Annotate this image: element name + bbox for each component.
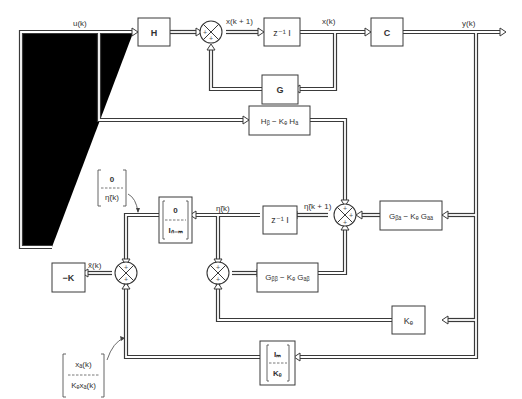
block-G: G: [262, 75, 298, 104]
plus-sign: +: [343, 219, 347, 226]
sum-junction-lower-middle: + +: [207, 262, 229, 284]
svg-text:0: 0: [173, 206, 178, 215]
svg-text:z⁻¹ I: z⁻¹ I: [271, 215, 289, 225]
svg-text:Gᵦᵦ − Kₑ Gₐᵦ: Gᵦᵦ − Kₑ Gₐᵦ: [265, 273, 309, 282]
sum-junction-middle: + + +: [334, 204, 356, 226]
block-delay-top: z⁻¹ I: [264, 18, 300, 46]
arrow-icon: [500, 28, 506, 36]
block-diagram: + + + + + + + + + H z⁻¹ I C G: [0, 0, 522, 399]
plus-sign: +: [343, 205, 347, 212]
block-delay-middle: z⁻¹ I: [263, 206, 297, 234]
block-Hb-KeHa: Hᵦ − Kₑ Hₐ: [249, 106, 310, 135]
block-Gbb-KeGab: Gᵦᵦ − Kₑ Gₐᵦ: [257, 263, 318, 292]
svg-text:Iₙ₋ₘ: Iₙ₋ₘ: [168, 226, 182, 235]
arrow-icon: [442, 211, 448, 219]
block-minus-K: −K: [52, 263, 85, 292]
block-Gba-KeGaa: Gᵦₐ − Kₑ Gₐₐ: [380, 201, 442, 230]
svg-text:xₐ(k): xₐ(k): [75, 360, 92, 369]
plus-sign: +: [349, 212, 353, 219]
annotation-0-eta: 0 η̃(k): [98, 170, 140, 213]
signal-y-label: y(k): [462, 19, 476, 28]
plus-sign: +: [216, 264, 220, 271]
block-Ke: Kₑ: [392, 306, 425, 334]
block-H: H: [138, 18, 170, 46]
arrow-icon: [207, 44, 215, 50]
svg-text:Kₑxₐ(k): Kₑxₐ(k): [71, 381, 96, 390]
svg-text:0: 0: [110, 175, 115, 184]
plus-sign: +: [209, 35, 213, 42]
svg-text:G: G: [276, 85, 283, 95]
plus-sign: +: [124, 276, 128, 283]
svg-text:Gᵦₐ − Kₑ Gₐₐ: Gᵦₐ − Kₑ Gₐₐ: [389, 212, 434, 221]
annotation-xa-Kexa: xₐ(k) Kₑxₐ(k): [63, 336, 125, 397]
arrow-icon: [132, 28, 138, 36]
svg-text:H: H: [151, 28, 158, 38]
block-stack-I-K: Iₘ Kₑ: [260, 341, 295, 385]
arrow-icon: [442, 316, 448, 324]
svg-text:Iₘ: Iₘ: [274, 350, 281, 359]
signal-x-next-label: x(k + 1): [226, 17, 253, 26]
block-stack-0-I: 0 Iₙ₋ₘ: [159, 197, 192, 243]
plus-sign: +: [203, 29, 207, 36]
svg-text:C: C: [384, 28, 391, 38]
arrow-icon: [258, 28, 264, 36]
signal-u-label: u(k): [73, 19, 87, 28]
svg-text:Kₑ: Kₑ: [273, 369, 282, 378]
sum-junction-left: + +: [115, 262, 137, 284]
svg-text:η̃(k): η̃(k): [105, 193, 119, 202]
sum-junction-top: + +: [200, 21, 222, 43]
arrow-icon: [243, 116, 249, 124]
arrow-icon: [356, 211, 362, 219]
svg-text:z⁻¹ I: z⁻¹ I: [273, 28, 291, 38]
block-C: C: [371, 18, 403, 46]
signal-x-hat-label: x̃(k): [88, 261, 102, 270]
pointer-arrow-icon: [107, 338, 124, 360]
svg-text:Hᵦ − Kₑ Hₐ: Hᵦ − Kₑ Hₐ: [261, 117, 299, 126]
plus-sign: +: [216, 276, 220, 283]
wires: [22, 33, 133, 247]
arrow-icon: [365, 28, 371, 36]
signal-x-label: x(k): [322, 17, 336, 26]
svg-text:−K: −K: [63, 273, 75, 283]
signal-eta-next-label: η̃(k + 1): [304, 202, 332, 211]
signal-eta-label: η̃(k): [216, 204, 230, 213]
plus-sign: +: [124, 264, 128, 271]
svg-text:Kₑ: Kₑ: [404, 316, 414, 326]
pointer-arrow-icon: [128, 194, 138, 212]
